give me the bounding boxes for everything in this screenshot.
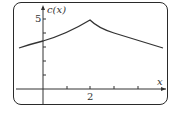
y-axis-arrow-icon [41, 5, 45, 10]
curve-c-of-x [19, 20, 163, 48]
x-axis-label: x [157, 76, 163, 87]
y-axis-label: c(x) [47, 4, 66, 15]
y-tick-label-5: 5 [35, 13, 41, 24]
x-axis-arrow-icon [161, 87, 166, 91]
x-tick-label-2: 2 [87, 91, 93, 102]
chart: 5 c(x) 2 x [0, 0, 175, 116]
